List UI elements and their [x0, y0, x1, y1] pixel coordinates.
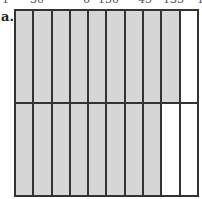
clipped-text: 1 — [2, 0, 9, 6]
shaded-cell — [71, 11, 87, 102]
shaded-cell — [107, 104, 123, 195]
shaded-cell — [107, 11, 123, 102]
unshaded-cell — [181, 104, 197, 195]
figure-label: a. — [1, 9, 14, 24]
clipped-text: 150 — [98, 0, 119, 6]
shaded-cell — [53, 104, 69, 195]
shaded-cell — [89, 11, 105, 102]
shaded-cell — [34, 11, 50, 102]
shaded-cell — [34, 104, 50, 195]
clipped-text: 30 — [30, 0, 44, 6]
clipped-text: 6 — [83, 0, 90, 6]
unshaded-cell — [181, 11, 197, 102]
shaded-cell — [16, 104, 32, 195]
shaded-cell — [126, 11, 142, 102]
shaded-cell — [126, 104, 142, 195]
clipped-text: 45 — [138, 0, 152, 6]
shaded-cell — [16, 11, 32, 102]
shaded-cell — [71, 104, 87, 195]
shaded-cell — [144, 11, 160, 102]
shaded-cell — [144, 104, 160, 195]
shaded-cell — [89, 104, 105, 195]
clipped-text: 1 — [197, 0, 202, 6]
unshaded-cell — [162, 104, 178, 195]
shaded-cell — [53, 11, 69, 102]
clipped-previous-line: 1 30 6 150 45 135 1 — [0, 0, 202, 5]
shaded-cell — [162, 11, 178, 102]
fraction-grid — [14, 9, 199, 197]
clipped-text: 135 — [163, 0, 184, 6]
